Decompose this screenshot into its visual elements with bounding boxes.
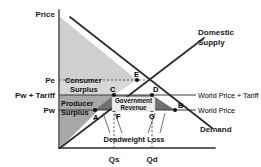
domestic-supply-label-line1: Domestic bbox=[198, 28, 235, 37]
producer-surplus-label-line1: Producer bbox=[61, 99, 94, 108]
producer-surplus-label-line2: Surplus bbox=[61, 108, 89, 117]
world-price-tariff-label: World Price + Tariff bbox=[198, 91, 259, 100]
government-revenue-label-line2: Revenue bbox=[120, 104, 147, 111]
y-axis-title: Price bbox=[35, 10, 55, 19]
x-tick-label-qd: Qd bbox=[146, 155, 157, 164]
consumer-surplus-label-line2: Surplus bbox=[70, 85, 98, 94]
point-label-e: E bbox=[134, 70, 139, 79]
point-label-a: A bbox=[93, 113, 99, 122]
point-label-b: B bbox=[178, 101, 184, 110]
point-label-c: C bbox=[110, 85, 116, 94]
tariff-welfare-diagram: Price Pe Pw + Tariff Pw Qs Qd Consumer S… bbox=[0, 0, 261, 167]
world-price-label: World Price bbox=[198, 106, 235, 115]
point-label-f: F bbox=[116, 112, 121, 121]
point-label-d: D bbox=[153, 85, 159, 94]
y-tick-label-pe: Pe bbox=[45, 76, 55, 85]
point-marker-b bbox=[173, 108, 177, 112]
domestic-supply-label-line2: Supply bbox=[198, 38, 225, 47]
point-label-g: G bbox=[149, 112, 155, 121]
y-tick-label-pw-tariff: Pw + Tariff bbox=[15, 91, 55, 100]
x-tick-label-qs: Qs bbox=[109, 155, 120, 164]
demand-label: Demand bbox=[200, 125, 232, 134]
consumer-surplus-label-line1: Consumer bbox=[65, 76, 102, 85]
y-tick-label-pw: Pw bbox=[43, 106, 55, 115]
point-marker-a bbox=[93, 108, 97, 112]
deadweight-loss-label: Deadweight Loss bbox=[104, 135, 165, 144]
